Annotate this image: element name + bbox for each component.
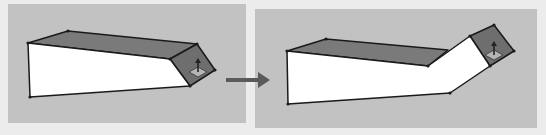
after-box: [285, 23, 515, 105]
before-box: [26, 29, 216, 98]
diagram-scene: [0, 0, 546, 135]
right-arrow-icon: [226, 72, 270, 88]
